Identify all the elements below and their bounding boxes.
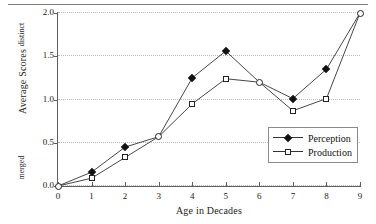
data-point-production: [189, 101, 195, 107]
data-point-production: [323, 96, 329, 102]
data-point-shared: [155, 133, 162, 140]
legend-item-production[interactable]: Production: [273, 145, 352, 159]
data-point-shared: [55, 183, 62, 190]
data-point-perception: [188, 74, 196, 82]
data-point-perception: [121, 143, 129, 151]
legend-label-perception: Perception: [303, 133, 351, 144]
data-point-perception: [289, 94, 297, 102]
data-point-production: [89, 175, 95, 181]
data-point-production: [122, 154, 128, 160]
data-point-production: [223, 76, 229, 82]
data-point-perception: [222, 47, 230, 55]
series-markers: [0, 0, 376, 224]
legend-label-production: Production: [303, 147, 352, 158]
legend-marker-open-square-icon: [273, 146, 303, 158]
data-point-perception: [322, 65, 330, 73]
legend-marker-filled-diamond-icon: [273, 132, 303, 144]
chart-legend: Perception Production: [268, 127, 358, 163]
chart-figure: Average Scores Age in Decades distinct m…: [0, 0, 376, 224]
data-point-shared: [357, 10, 364, 17]
data-point-production: [290, 108, 296, 114]
data-point-shared: [256, 79, 263, 86]
legend-item-perception[interactable]: Perception: [273, 131, 352, 145]
